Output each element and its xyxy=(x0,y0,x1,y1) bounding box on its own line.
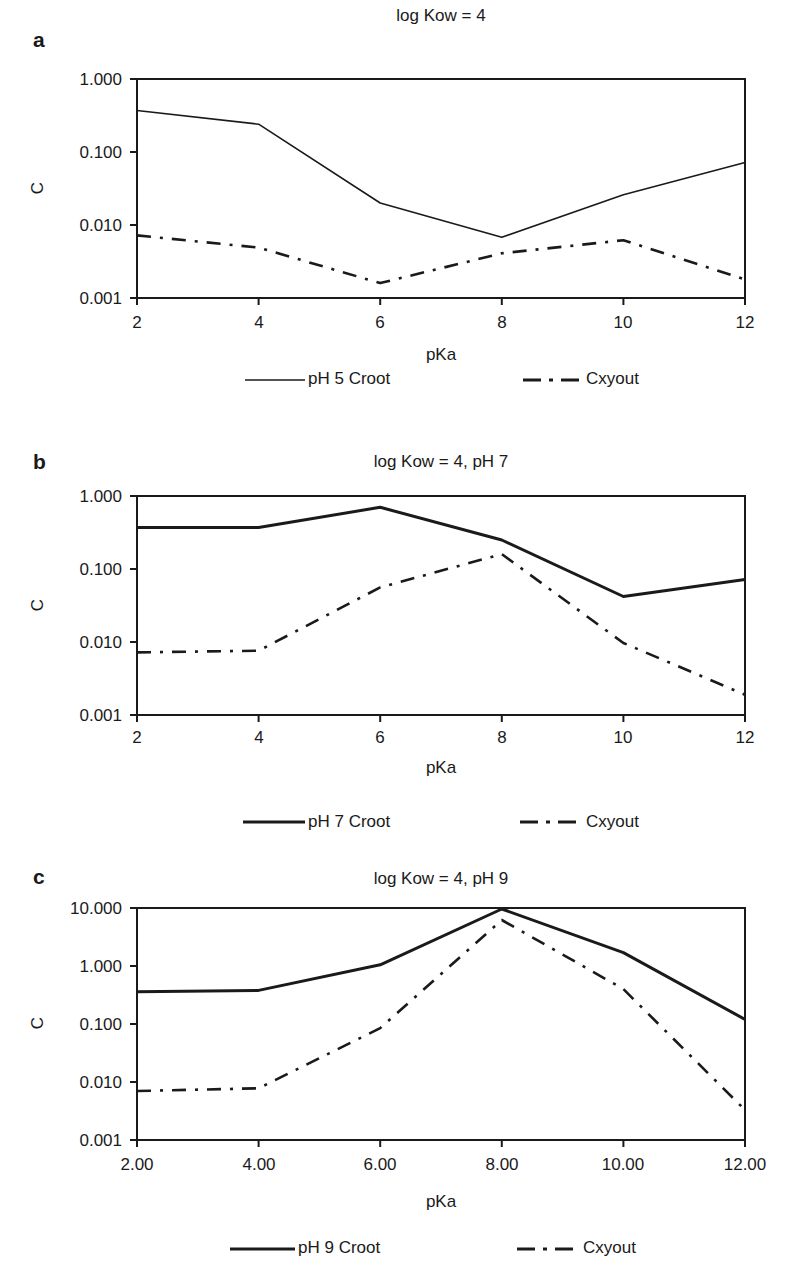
chart-plot-area xyxy=(0,0,801,1273)
series-croot-line xyxy=(137,507,745,596)
series-croot-line xyxy=(137,111,745,238)
series-cxyout-line xyxy=(137,920,745,1110)
plot-frame xyxy=(137,908,745,1140)
series-croot-line xyxy=(137,909,745,1019)
plot-frame xyxy=(137,79,745,298)
series-cxyout-line xyxy=(137,554,745,695)
series-cxyout-line xyxy=(137,235,745,283)
